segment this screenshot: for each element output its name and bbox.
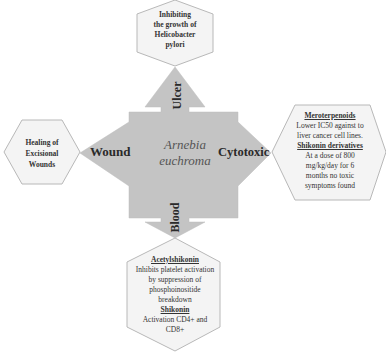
- hex-bottom-line: CD8+: [130, 325, 220, 335]
- arrow-label-ulcer: Ulcer: [170, 81, 185, 111]
- center-label: Arnebia euchroma: [140, 137, 230, 169]
- hex-right-line: mg/kg/day for 6: [290, 161, 370, 171]
- hex-bottom-line: phosphoinositide: [130, 285, 220, 295]
- hex-right-line: symptoms found: [290, 181, 370, 191]
- hex-right-line: liver cancer cell lines.: [290, 131, 370, 141]
- arrow-label-blood: Blood: [168, 201, 183, 235]
- hex-bottom-heading-shikonin: Shikonin: [130, 305, 220, 315]
- hex-right-heading-shikonin-derivatives: Shikonin derivatives: [290, 141, 370, 151]
- arrow-label-wound: Wound: [90, 144, 130, 160]
- hex-bottom-line: breakdown: [130, 295, 220, 305]
- hexagon-bottom-text: Acetylshikonin Inhibits platelet activat…: [130, 255, 220, 335]
- center-line-2: euchroma: [140, 153, 230, 169]
- hex-bottom-heading-acetylshikonin: Acetylshikonin: [130, 255, 220, 265]
- hex-bottom-line: Inhibits platelet activation: [130, 265, 220, 275]
- arrow-label-cytotoxic: Cytotoxic: [218, 145, 269, 160]
- hexagon-left-text: Healing of Excisional Wounds: [10, 137, 74, 170]
- hexagon-right-text: Meroterpenoids Lower IC50 against to liv…: [290, 111, 370, 191]
- hex-right-line: months no toxic: [290, 171, 370, 181]
- hexagon-top-text: Inhibiting the growth of Helicobacter py…: [140, 10, 210, 50]
- hex-left-line: Healing of: [10, 137, 74, 148]
- hex-bottom-line: Activation CD4+ and: [130, 315, 220, 325]
- hex-top-line: the growth of: [140, 20, 210, 30]
- hex-bottom-line: by suppression of: [130, 275, 220, 285]
- hex-right-heading-meroterpenoids: Meroterpenoids: [290, 111, 370, 121]
- hex-right-line: At a dose of 800: [290, 151, 370, 161]
- hex-left-line: Excisional: [10, 148, 74, 159]
- hex-right-line: Lower IC50 against to: [290, 121, 370, 131]
- hex-left-line: Wounds: [10, 159, 74, 170]
- hex-top-line: Helicobacter: [140, 30, 210, 40]
- hex-top-line: pylori: [140, 40, 210, 50]
- hex-top-line: Inhibiting: [140, 10, 210, 20]
- center-line-1: Arnebia: [140, 137, 230, 153]
